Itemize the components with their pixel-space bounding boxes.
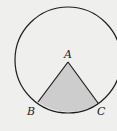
- label-c: C: [97, 105, 106, 118]
- shaded-sector: [38, 62, 98, 112]
- label-a: A: [63, 48, 72, 61]
- circle-sector-diagram: A B C: [0, 0, 117, 131]
- label-b: B: [26, 105, 35, 118]
